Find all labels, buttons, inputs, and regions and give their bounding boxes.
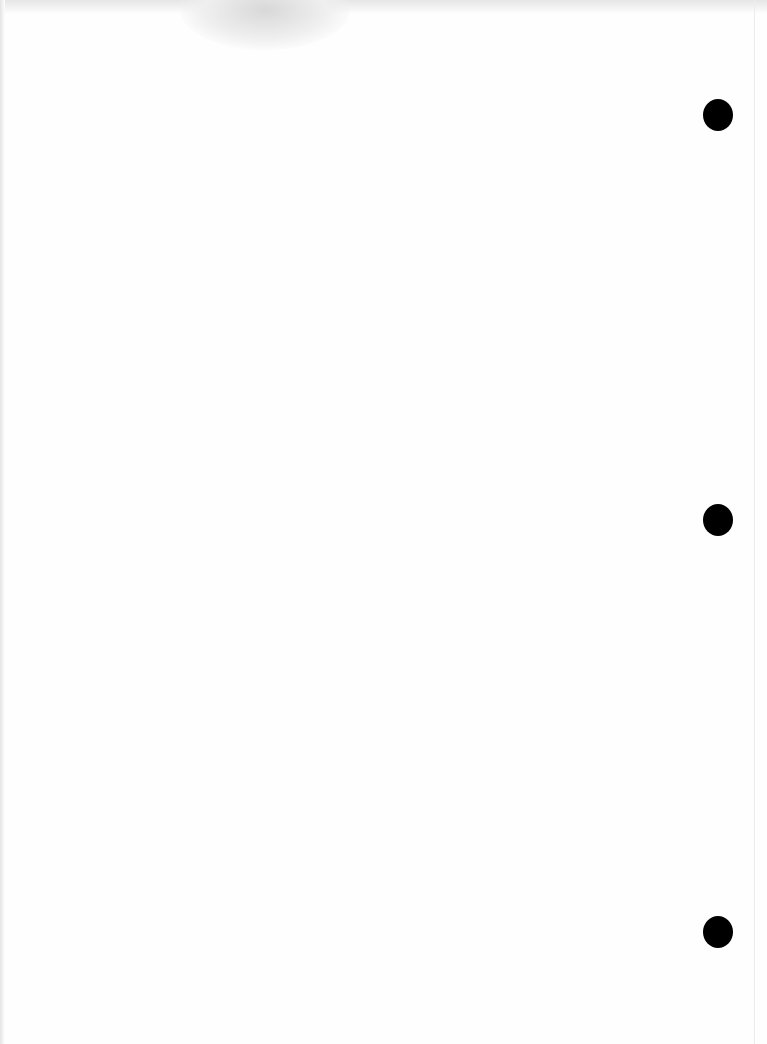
scan-smudge xyxy=(180,0,350,50)
punch-hole-top xyxy=(703,99,733,131)
scan-edge-top xyxy=(0,0,767,14)
scan-edge-right xyxy=(754,0,755,1044)
scan-edge-left xyxy=(0,0,5,1044)
blank-page xyxy=(0,0,767,1044)
punch-hole-middle xyxy=(703,504,733,536)
punch-hole-bottom xyxy=(703,916,733,948)
